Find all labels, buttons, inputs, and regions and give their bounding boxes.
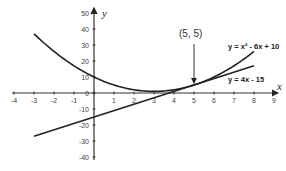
- y-tick-label: 0: [85, 90, 89, 97]
- linear-line: [34, 66, 254, 136]
- x-tick-label: 6: [212, 97, 216, 104]
- y-tick-label: 30: [81, 42, 89, 49]
- parabola-equation-label: y = x² - 6x + 10: [228, 42, 279, 51]
- y-tick-label: -40: [79, 154, 89, 161]
- x-tick-label: -3: [31, 97, 37, 104]
- x-axis: -4-3-2-1123456789: [11, 92, 278, 105]
- x-tick-label: 1: [112, 97, 116, 104]
- y-tick-label: 40: [81, 26, 89, 33]
- point-annotation-label: (5, 5): [179, 28, 202, 39]
- y-tick-label: -30: [79, 138, 89, 145]
- parabola-curve: [34, 34, 254, 92]
- chart-canvas: -4-3-2-1123456789 50403020100-10-20-30-4…: [0, 0, 286, 171]
- x-tick-label: 8: [252, 97, 256, 104]
- x-tick-label: 7: [232, 97, 236, 104]
- y-axis: 50403020100-10-20-30-40: [79, 8, 96, 161]
- y-tick-label: -10: [79, 106, 89, 113]
- x-tick-label: 5: [192, 97, 196, 104]
- y-tick-label: 20: [81, 58, 89, 65]
- y-tick-label: -20: [79, 122, 89, 129]
- x-tick-label: -4: [11, 97, 17, 104]
- y-tick-label: 50: [81, 10, 89, 17]
- x-tick-label: 9: [272, 97, 276, 104]
- line-equation-label: y = 4x - 15: [228, 75, 264, 84]
- x-tick-label: -1: [71, 97, 77, 104]
- y-axis-label: y: [101, 7, 107, 19]
- x-axis-label: x: [276, 80, 282, 92]
- x-tick-label: -2: [51, 97, 57, 104]
- y-tick-labels: 50403020100-10-20-30-40: [79, 10, 89, 161]
- x-tick-label: 4: [172, 97, 176, 104]
